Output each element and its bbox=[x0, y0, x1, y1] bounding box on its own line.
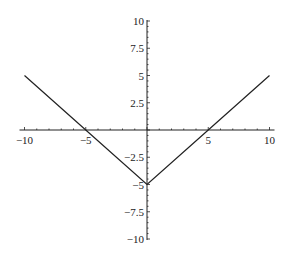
y-tick-label: 5 bbox=[139, 70, 145, 82]
y-tick-label: 10 bbox=[133, 15, 145, 27]
x-tick-label: 5 bbox=[206, 134, 212, 146]
x-tick-label: −10 bbox=[16, 134, 34, 146]
y-tick-label: −10 bbox=[127, 233, 145, 245]
y-tick-label: 7.5 bbox=[130, 42, 144, 54]
axis-ticks bbox=[25, 21, 270, 239]
chart-plot: −10−5510107.552.5−2.5−5−7.5−10 bbox=[0, 0, 288, 264]
x-tick-label: −5 bbox=[80, 134, 92, 146]
y-tick-label: 2.5 bbox=[130, 97, 144, 109]
y-tick-label: −2.5 bbox=[124, 151, 144, 163]
y-tick-label: −7.5 bbox=[124, 206, 144, 218]
x-tick-label: 10 bbox=[264, 134, 276, 146]
